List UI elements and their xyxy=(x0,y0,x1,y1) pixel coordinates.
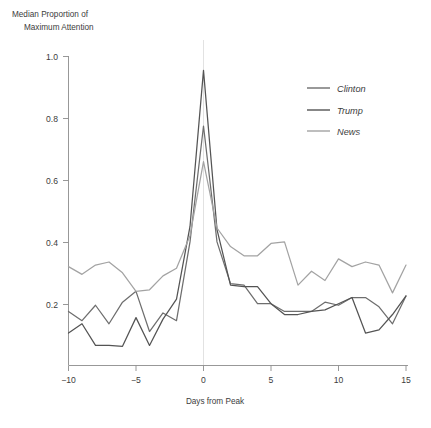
legend-label-clinton: Clinton xyxy=(337,84,366,94)
chart-container: Median Proportion of Maximum Attention 1… xyxy=(0,0,431,428)
y-tick-label-0.8: 0.8 xyxy=(46,114,58,124)
x-tick-label-10: 10 xyxy=(334,375,344,385)
series-line-clinton xyxy=(69,126,407,331)
x-tick-label-5: 5 xyxy=(269,375,274,385)
x-tick-label-15: 15 xyxy=(401,375,411,385)
x-tick-label--5: −5 xyxy=(131,375,141,385)
y-axis-title-line1: Median Proportion of xyxy=(12,10,89,19)
x-axis-title: Days from Peak xyxy=(186,397,245,406)
y-axis-title-line2: Maximum Attention xyxy=(24,23,94,32)
chart-legend: Clinton Trump News xyxy=(307,84,366,137)
x-tick-label-0: 0 xyxy=(201,375,206,385)
y-tick-label-0.6: 0.6 xyxy=(46,176,58,186)
y-tick-label-1.0: 1.0 xyxy=(46,52,58,62)
legend-item-clinton[interactable]: Clinton xyxy=(307,84,366,94)
y-tick-label-0.4: 0.4 xyxy=(46,238,58,248)
x-axis-ticks xyxy=(69,366,407,372)
line-chart: Median Proportion of Maximum Attention 1… xyxy=(0,0,431,428)
series-line-news xyxy=(69,162,407,293)
y-axis-ticks xyxy=(63,57,69,305)
y-axis-tick-labels: 1.0 0.8 0.6 0.4 0.2 xyxy=(46,52,58,310)
y-tick-label-0.2: 0.2 xyxy=(46,300,58,310)
x-axis-tick-labels: −10 −5 0 5 10 15 xyxy=(61,375,411,385)
legend-label-news: News xyxy=(337,127,360,137)
x-tick-label--10: −10 xyxy=(61,375,76,385)
legend-item-news[interactable]: News xyxy=(307,127,360,137)
legend-label-trump: Trump xyxy=(337,106,363,116)
legend-item-trump[interactable]: Trump xyxy=(307,106,363,116)
